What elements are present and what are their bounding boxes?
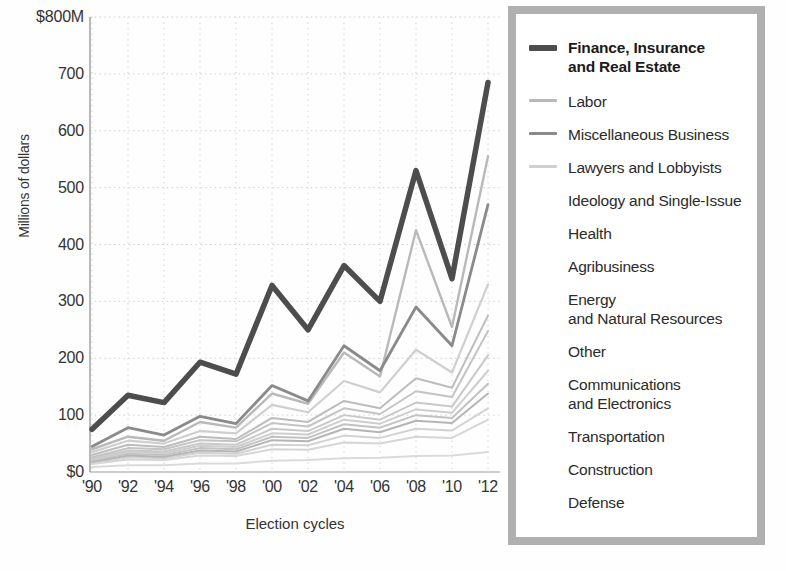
legend-item-label: Finance, Insurance and Real Estate — [568, 38, 705, 76]
legend-swatch-placeholder — [528, 375, 558, 393]
y-axis-label: Millions of dollars — [16, 116, 32, 256]
legend-item-label: Other — [568, 342, 606, 361]
legend-item-label: Transportation — [568, 427, 665, 446]
x-tick-label: '12 — [468, 478, 508, 496]
x-tick-label: '90 — [72, 478, 112, 496]
legend-panel: Finance, Insurance and Real EstateLaborM… — [508, 6, 765, 545]
x-tick-label: '10 — [432, 478, 472, 496]
legend-item[interactable]: Agribusiness — [528, 257, 749, 276]
legend-item-label: Communications and Electronics — [568, 375, 681, 413]
chart-canvas — [90, 17, 500, 472]
legend-item[interactable]: Finance, Insurance and Real Estate — [528, 38, 749, 76]
legend-swatch-placeholder — [528, 290, 558, 308]
legend-item[interactable]: Other — [528, 342, 749, 361]
x-tick-label: '00 — [252, 478, 292, 496]
legend-item[interactable]: Transportation — [528, 427, 749, 446]
legend-line-swatch-icon — [528, 158, 558, 176]
y-tick-label: 200 — [58, 350, 84, 366]
legend-item[interactable]: Communications and Electronics — [528, 375, 749, 413]
legend-swatch-placeholder — [528, 191, 558, 209]
x-axis-label: Election cycles — [90, 515, 500, 532]
x-tick-label: '98 — [216, 478, 256, 496]
legend-swatch-placeholder — [528, 257, 558, 275]
x-tick-label: '94 — [144, 478, 184, 496]
legend-items: Finance, Insurance and Real EstateLaborM… — [516, 14, 757, 537]
legend-item-label: Construction — [568, 460, 653, 479]
x-axis-ticks: '90'92'94'96'98'00'02'04'06'08'10'12 — [0, 478, 520, 506]
y-tick-label: $800M — [36, 9, 84, 25]
y-tick-label: 400 — [58, 237, 84, 253]
legend-item[interactable]: Defense — [528, 493, 749, 512]
legend-item-label: Miscellaneous Business — [568, 125, 729, 144]
legend-swatch-placeholder — [528, 493, 558, 511]
legend-line-swatch-icon — [528, 92, 558, 110]
legend-swatch-placeholder — [528, 224, 558, 242]
legend-swatch-placeholder — [528, 460, 558, 478]
y-tick-label: 500 — [58, 180, 84, 196]
legend-swatch-placeholder — [528, 342, 558, 360]
legend-item-label: Ideology and Single-Issue — [568, 191, 741, 210]
y-tick-label: 100 — [58, 407, 84, 423]
y-tick-label: 300 — [58, 293, 84, 309]
plot-area — [90, 17, 500, 472]
y-tick-label: 700 — [58, 66, 84, 82]
y-tick-label: 600 — [58, 123, 84, 139]
legend-item-label: Agribusiness — [568, 257, 654, 276]
legend-line-swatch-icon — [528, 125, 558, 143]
x-tick-label: '04 — [324, 478, 364, 496]
legend-item[interactable]: Ideology and Single-Issue — [528, 191, 749, 210]
legend-item[interactable]: Lawyers and Lobbyists — [528, 158, 749, 177]
legend-item[interactable]: Health — [528, 224, 749, 243]
chart-figure: $800M700600500400300200100$0 Millions of… — [0, 0, 786, 571]
legend-item[interactable]: Miscellaneous Business — [528, 125, 749, 144]
legend-item-label: Labor — [568, 92, 607, 111]
legend-item-label: Health — [568, 224, 612, 243]
legend-item[interactable]: Construction — [528, 460, 749, 479]
legend-line-swatch-icon — [528, 38, 558, 56]
x-tick-label: '06 — [360, 478, 400, 496]
legend-item-label: Defense — [568, 493, 624, 512]
legend-item[interactable]: Labor — [528, 92, 749, 111]
x-tick-label: '02 — [288, 478, 328, 496]
x-tick-label: '08 — [396, 478, 436, 496]
series-line — [92, 82, 488, 429]
legend-item-label: Energy and Natural Resources — [568, 290, 722, 328]
x-tick-label: '96 — [180, 478, 220, 496]
x-tick-label: '92 — [108, 478, 148, 496]
legend-swatch-placeholder — [528, 427, 558, 445]
legend-item[interactable]: Energy and Natural Resources — [528, 290, 749, 328]
legend-item-label: Lawyers and Lobbyists — [568, 158, 721, 177]
